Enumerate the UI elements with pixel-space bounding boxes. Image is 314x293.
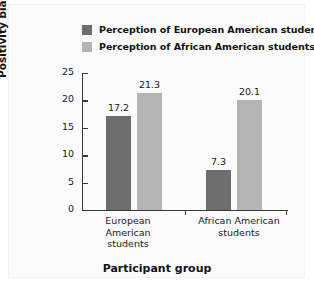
x-category-label-african-american: African American students: [184, 215, 294, 238]
y-tick-label-25: 25: [62, 66, 74, 77]
dark-gray-swatch-icon: [82, 25, 92, 35]
y-tick-25: 25: [82, 73, 88, 74]
light-gray-swatch-icon: [82, 42, 92, 52]
y-tick-label-20: 20: [62, 93, 74, 104]
y-tick-label-10: 10: [62, 148, 74, 159]
cat-0-line-2: students: [88, 238, 168, 250]
bar-african-perception-of-african: 20.1: [237, 100, 262, 210]
bar-chart-figure: Perception of European American students…: [0, 0, 314, 293]
legend-item-african-american: Perception of African American students: [82, 39, 292, 54]
cat-1-line-0: African American: [184, 215, 294, 227]
bar-value-7-3: 7.3: [211, 156, 226, 167]
y-tick-5: 5: [82, 183, 88, 184]
y-tick-label-15: 15: [62, 121, 74, 132]
bar-value-20-1: 20.1: [239, 86, 260, 97]
legend-label-1: Perception of African American students: [99, 41, 314, 52]
y-tick-20: 20: [82, 100, 88, 101]
cat-0-line-0: European: [88, 215, 168, 227]
y-tick-0: 0: [82, 210, 88, 211]
bar-value-17-2: 17.2: [108, 102, 129, 113]
legend-item-european-american: Perception of European American students: [82, 22, 292, 37]
y-axis-spine: [82, 73, 83, 210]
y-axis-label: Positivity bias: [0, 0, 8, 96]
cat-0-line-1: American: [88, 227, 168, 239]
bar-african-perception-of-european: 7.3: [206, 170, 231, 210]
y-tick-label-0: 0: [68, 203, 74, 214]
cat-1-line-1: students: [184, 227, 294, 239]
y-tick-15: 15: [82, 128, 88, 129]
x-category-label-european-american: European American students: [88, 215, 168, 250]
chart-legend: Perception of European American students…: [82, 22, 292, 56]
bar-value-21-3: 21.3: [139, 79, 160, 90]
plot-area: 25 20 15 10 5 0 17.2 21.3 7.3: [82, 73, 288, 210]
y-tick-10: 10: [82, 155, 88, 156]
bar-european-perception-of-african: 21.3: [137, 93, 162, 210]
y-tick-label-5: 5: [68, 176, 74, 187]
legend-label-0: Perception of European American students: [99, 24, 314, 35]
bar-european-perception-of-european: 17.2: [106, 116, 131, 210]
x-axis-label: Participant group: [0, 262, 314, 275]
